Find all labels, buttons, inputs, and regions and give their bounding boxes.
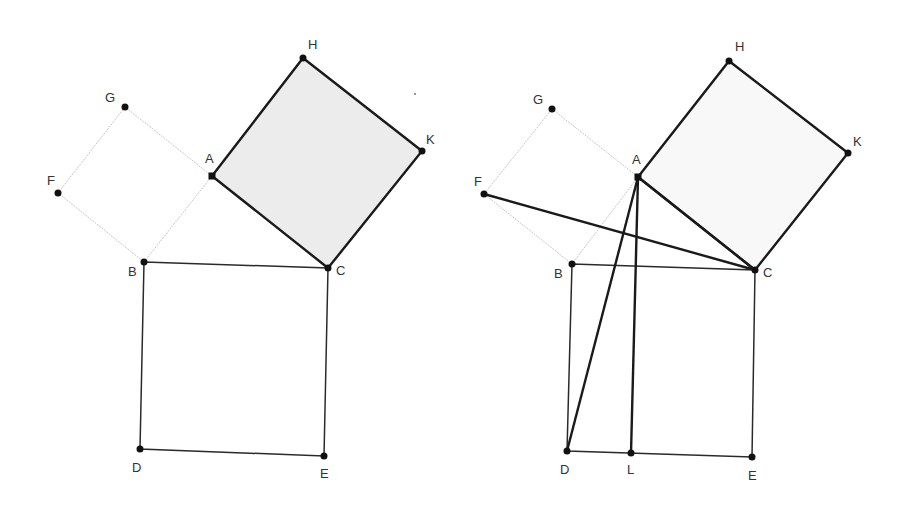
point-e <box>321 453 328 460</box>
label-a: A <box>205 151 214 166</box>
label-k: K <box>426 132 435 147</box>
point-h <box>300 55 307 62</box>
pythagoras-diagram: H G K A F B C D E <box>0 0 907 508</box>
point-k <box>419 148 426 155</box>
point-l <box>628 450 635 457</box>
label-g: G <box>105 90 115 105</box>
square-bced <box>140 262 328 456</box>
left-panel: H G K A F B C D E <box>47 37 435 481</box>
point-e <box>749 454 756 461</box>
stray-dot <box>414 93 416 95</box>
label-c: C <box>336 263 345 278</box>
point-b <box>569 261 576 268</box>
point-a <box>209 173 216 180</box>
label-f: F <box>474 174 482 189</box>
label-f: F <box>47 173 55 188</box>
segment-al <box>631 177 638 453</box>
labels-right: H G K A F B C D L E <box>474 39 862 483</box>
label-d: D <box>132 460 141 475</box>
point-b <box>141 259 148 266</box>
point-d <box>564 448 571 455</box>
point-d <box>137 446 144 453</box>
label-a: A <box>632 152 641 167</box>
label-d: D <box>560 462 569 477</box>
label-b: B <box>554 266 563 281</box>
point-g <box>122 104 129 111</box>
square-abfg <box>484 109 638 264</box>
point-k <box>845 150 852 157</box>
square-ackh-light <box>638 61 848 270</box>
segment-ad <box>567 177 638 451</box>
square-bced <box>567 264 755 457</box>
label-b: B <box>128 264 137 279</box>
point-a <box>635 174 642 181</box>
label-e: E <box>320 466 329 481</box>
point-f <box>55 190 62 197</box>
label-g: G <box>533 92 543 107</box>
label-h: H <box>308 37 317 52</box>
label-l: L <box>627 462 634 477</box>
label-c: C <box>763 265 772 280</box>
label-e: E <box>748 468 757 483</box>
right-panel: H G K A F B C D L E <box>474 39 862 483</box>
square-ahkc-shaded <box>212 58 422 268</box>
square-abfg <box>58 107 212 262</box>
point-c <box>752 267 759 274</box>
labels-left: H G K A F B C D E <box>47 37 435 481</box>
label-k: K <box>853 134 862 149</box>
point-h <box>726 58 733 65</box>
label-h: H <box>735 39 744 54</box>
point-g <box>549 106 556 113</box>
point-c <box>325 265 332 272</box>
point-f <box>481 191 488 198</box>
